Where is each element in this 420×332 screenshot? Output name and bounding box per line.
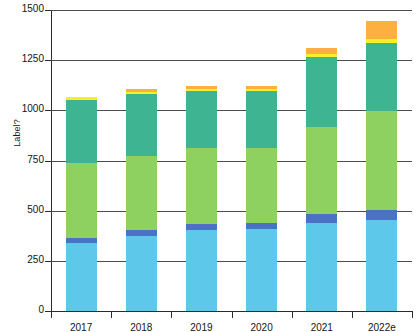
bar-2021[interactable] bbox=[306, 48, 337, 311]
y-tick-mark-1000 bbox=[45, 110, 51, 111]
x-axis-label-2017: 2017 bbox=[51, 322, 111, 332]
bar-2018[interactable] bbox=[126, 89, 157, 311]
gridline-1500 bbox=[51, 10, 412, 11]
y-tick-mark-500 bbox=[45, 211, 51, 212]
y-tick-label: 750 bbox=[0, 154, 44, 165]
y-tick-label: 250 bbox=[0, 254, 44, 265]
bar-segment-series-1 bbox=[306, 223, 337, 311]
bar-segment-series-4 bbox=[126, 94, 157, 155]
x-axis-label-2021: 2021 bbox=[292, 322, 352, 332]
y-tick-label: 1000 bbox=[0, 103, 44, 114]
bar-segment-series-3 bbox=[186, 148, 217, 223]
bar-2017[interactable] bbox=[66, 97, 97, 311]
bar-segment-series-1 bbox=[126, 236, 157, 311]
y-axis-title: Label? bbox=[12, 88, 22, 178]
y-tick-label: 1500 bbox=[0, 3, 44, 14]
gridline-1000 bbox=[51, 110, 412, 111]
y-tick-label: 1250 bbox=[0, 53, 44, 64]
bar-segment-series-4 bbox=[186, 91, 217, 148]
y-tick-mark-1500 bbox=[45, 10, 51, 11]
bar-segment-series-4 bbox=[246, 91, 277, 148]
y-tick-mark-750 bbox=[45, 161, 51, 162]
x-tick-mark bbox=[51, 311, 52, 318]
x-tick-mark bbox=[412, 311, 413, 318]
x-axis-label-2020: 2020 bbox=[232, 322, 292, 332]
bar-segment-series-3 bbox=[246, 148, 277, 222]
y-tick-label: 500 bbox=[0, 204, 44, 215]
bar-segment-series-4 bbox=[66, 100, 97, 162]
bar-segment-series-1 bbox=[66, 243, 97, 311]
bar-segment-series-2 bbox=[306, 214, 337, 223]
bar-segment-series-2 bbox=[366, 210, 397, 220]
gridline-750 bbox=[51, 161, 412, 162]
x-tick-mark bbox=[352, 311, 353, 318]
x-axis-label-2019: 2019 bbox=[171, 322, 231, 332]
bar-2020[interactable] bbox=[246, 86, 277, 311]
x-tick-mark bbox=[111, 311, 112, 318]
y-tick-mark-1250 bbox=[45, 60, 51, 61]
gridline-500 bbox=[51, 211, 412, 212]
x-axis-label-2022e: 2022e bbox=[352, 322, 412, 332]
x-axis-label-2018: 2018 bbox=[111, 322, 171, 332]
bar-segment-series-3 bbox=[126, 156, 157, 230]
x-tick-mark bbox=[292, 311, 293, 318]
bar-segment-series-4 bbox=[366, 43, 397, 111]
x-tick-mark bbox=[171, 311, 172, 318]
x-tick-mark bbox=[232, 311, 233, 318]
bar-segment-series-3 bbox=[66, 163, 97, 238]
bar-segment-series-3 bbox=[366, 111, 397, 209]
bar-segment-series-6 bbox=[366, 21, 397, 39]
bar-segment-series-4 bbox=[306, 57, 337, 127]
bar-segment-series-1 bbox=[186, 230, 217, 311]
bar-segment-series-1 bbox=[246, 229, 277, 311]
gridline-1250 bbox=[51, 60, 412, 61]
bar-segment-series-1 bbox=[366, 220, 397, 311]
bar-2022e[interactable] bbox=[366, 21, 397, 311]
y-tick-label: 0 bbox=[0, 304, 44, 315]
bar-2019[interactable] bbox=[186, 86, 217, 311]
y-tick-mark-250 bbox=[45, 261, 51, 262]
chart-container: Label? 201720182019202020212022e 0250500… bbox=[0, 0, 420, 332]
gridline-250 bbox=[51, 261, 412, 262]
bar-segment-series-3 bbox=[306, 127, 337, 213]
plot-area: 201720182019202020212022e bbox=[51, 10, 412, 311]
